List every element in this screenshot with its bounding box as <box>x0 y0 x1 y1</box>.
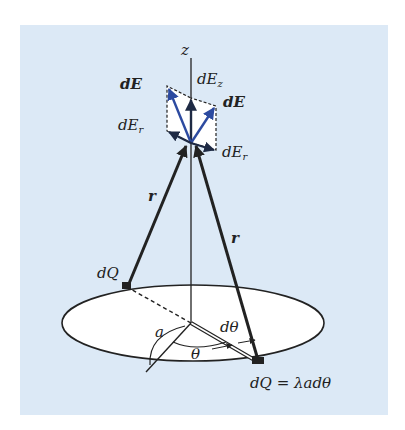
dE-label-left: dE <box>120 75 142 93</box>
r-label-left: r <box>148 187 157 205</box>
figure: z dE dEr dEz dE dEr r r dQ a dθ θ dQ = λ… <box>0 0 405 430</box>
a-label: a <box>155 323 164 341</box>
dQ-label-left: dQ <box>97 264 119 282</box>
charge-element-left <box>122 282 131 289</box>
theta-label: θ <box>191 345 200 363</box>
charge-element-right <box>252 357 264 364</box>
dQ-equation-label: dQ = λadθ <box>250 374 331 392</box>
dE-label-right: dE <box>223 93 245 111</box>
ring-charge-field-diagram: z dE dEr dEz dE dEr r r dQ a dθ θ dQ = λ… <box>0 0 405 430</box>
z-axis-label: z <box>180 41 189 59</box>
dtheta-label: dθ <box>220 318 239 336</box>
r-label-right: r <box>231 229 240 247</box>
